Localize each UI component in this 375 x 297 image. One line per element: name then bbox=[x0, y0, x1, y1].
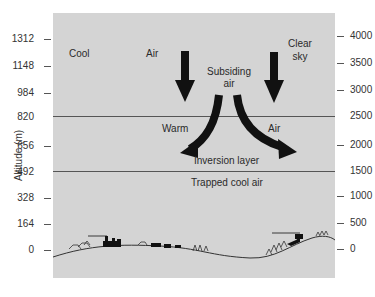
houses-left-icon bbox=[69, 241, 90, 249]
buildings-middle-icon bbox=[151, 243, 181, 248]
house-middle-icon bbox=[138, 242, 147, 245]
label-cool: Cool bbox=[69, 48, 90, 59]
label-trapped-cool-air: Trapped cool air bbox=[191, 177, 263, 188]
factory-left-icon bbox=[88, 236, 121, 247]
factory-right-icon bbox=[272, 233, 303, 246]
label-warm: Warm bbox=[162, 123, 188, 134]
label-subsiding-air: air bbox=[223, 78, 234, 89]
down-arrow-right-icon bbox=[264, 52, 284, 103]
label-inversion-layer: Inversion layer bbox=[194, 155, 259, 166]
curved-arrow-right-icon bbox=[237, 95, 297, 159]
label-subsiding: Subsiding bbox=[207, 66, 251, 77]
down-arrow-left-icon bbox=[175, 51, 195, 102]
trees-top-right-icon bbox=[316, 231, 328, 236]
label-air-mid: Air bbox=[268, 123, 280, 134]
label-air-top: Air bbox=[146, 48, 158, 59]
diagram-graphics bbox=[0, 0, 375, 297]
label-clear: Clear bbox=[288, 38, 312, 49]
label-sky: sky bbox=[293, 51, 308, 62]
